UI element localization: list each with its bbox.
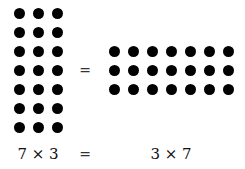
dot — [128, 84, 139, 95]
dot — [14, 84, 25, 95]
dot — [166, 84, 177, 95]
dot — [223, 65, 234, 76]
dot — [14, 8, 25, 19]
left-label: 7 × 3 — [17, 145, 58, 163]
dot — [223, 84, 234, 95]
dot — [109, 65, 120, 76]
dot — [14, 65, 25, 76]
equals-sign: = — [79, 62, 91, 78]
dot — [33, 8, 44, 19]
dot — [109, 46, 120, 57]
dot — [52, 27, 63, 38]
dot — [128, 46, 139, 57]
dot — [223, 46, 234, 57]
dot — [52, 46, 63, 57]
dot — [204, 46, 215, 57]
dot — [33, 65, 44, 76]
dot — [109, 84, 120, 95]
dot — [33, 84, 44, 95]
right-label: 3 × 7 — [150, 145, 191, 163]
dot — [33, 103, 44, 114]
dot — [185, 65, 196, 76]
label-equals: = — [79, 146, 91, 162]
dot — [33, 27, 44, 38]
dot — [166, 46, 177, 57]
dot — [128, 65, 139, 76]
dot — [14, 122, 25, 133]
dot — [14, 46, 25, 57]
dot — [185, 84, 196, 95]
dot — [52, 103, 63, 114]
dot — [147, 84, 158, 95]
dot — [52, 84, 63, 95]
dot — [204, 65, 215, 76]
dot — [166, 65, 177, 76]
dot — [147, 46, 158, 57]
dot — [33, 122, 44, 133]
dot — [52, 122, 63, 133]
dot — [147, 65, 158, 76]
dot — [52, 65, 63, 76]
dot — [204, 84, 215, 95]
dot — [33, 46, 44, 57]
dot — [14, 103, 25, 114]
dot — [52, 8, 63, 19]
dot — [14, 27, 25, 38]
dot — [185, 46, 196, 57]
